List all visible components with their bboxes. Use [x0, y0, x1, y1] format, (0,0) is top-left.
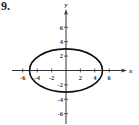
y-tick-label: -2	[58, 81, 63, 88]
x-axis-label: x	[128, 67, 133, 75]
ellipse-plot: xy -6-4-2246-6-4-2246	[0, 0, 139, 125]
y-tick-label: -4	[58, 96, 64, 103]
y-tick-label: 2	[60, 52, 63, 59]
x-tick-label: 4	[93, 74, 97, 81]
y-tick-label: -6	[58, 110, 64, 117]
x-tick-label: -2	[49, 74, 54, 81]
x-tick-label: -4	[34, 74, 40, 81]
x-tick-label: 6	[108, 74, 112, 81]
y-axis-label: y	[64, 1, 69, 9]
axes: xy	[12, 1, 133, 124]
y-tick-label: 6	[60, 24, 64, 31]
x-tick-label: -6	[20, 74, 26, 81]
x-tick-label: 2	[79, 74, 82, 81]
y-tick-label: 4	[60, 38, 64, 45]
